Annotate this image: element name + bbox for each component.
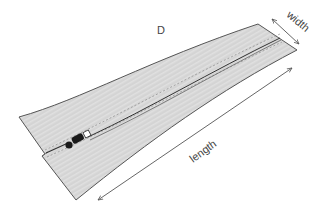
zipper-diagram: D width length [0, 0, 325, 217]
length-label: length [187, 137, 218, 164]
width-label: width [284, 8, 312, 34]
figure-label: D [157, 24, 165, 36]
